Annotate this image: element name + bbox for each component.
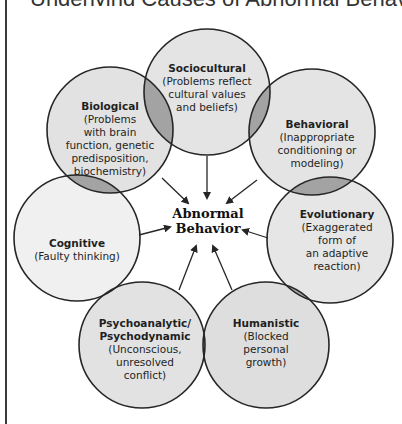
label-cognitive: Cognitive (Faulty thinking) <box>20 237 134 263</box>
heading: Psychoanalytic/ Psychodynamic <box>90 317 200 343</box>
arrow-from-humanistic <box>213 246 232 290</box>
description: (Unconscious, unresolved conflict) <box>90 343 200 382</box>
label-evolutionary: Evolutionary (Exaggerated form of an ada… <box>282 208 392 273</box>
arrow-from-biological <box>162 178 188 203</box>
description: (Inappropriate conditioning or modeling) <box>262 131 372 170</box>
center-label-abnormal-behavior: Abnormal Behavior <box>162 206 254 236</box>
heading: Evolutionary <box>282 208 392 221</box>
description: (Exaggerated form of an adaptive reactio… <box>282 221 392 273</box>
description: (Blocked personal growth) <box>220 330 312 369</box>
arrow-from-behavioral <box>227 180 257 203</box>
heading: Humanistic <box>220 317 312 330</box>
description: (Faulty thinking) <box>20 250 134 263</box>
label-sociocultural: Sociocultural (Problems reflect cultural… <box>152 62 262 114</box>
label-behavioral: Behavioral (Inappropriate conditioning o… <box>262 118 372 170</box>
heading: Biological <box>52 100 168 113</box>
heading: Cognitive <box>20 237 134 250</box>
center-line-1: Abnormal <box>172 206 243 221</box>
heading: Behavioral <box>262 118 372 131</box>
heading: Sociocultural <box>152 62 262 75</box>
label-humanistic: Humanistic (Blocked personal growth) <box>220 317 312 369</box>
label-psychoanalytic: Psychoanalytic/ Psychodynamic (Unconscio… <box>90 317 200 382</box>
arrow-from-psychoanalytic <box>179 246 196 290</box>
description: (Problems with brain function, genetic p… <box>52 113 168 178</box>
center-line-2: Behavior <box>175 221 240 236</box>
description: (Problems reflect cultural values and be… <box>152 75 262 114</box>
label-biological: Biological (Problems with brain function… <box>52 100 168 178</box>
